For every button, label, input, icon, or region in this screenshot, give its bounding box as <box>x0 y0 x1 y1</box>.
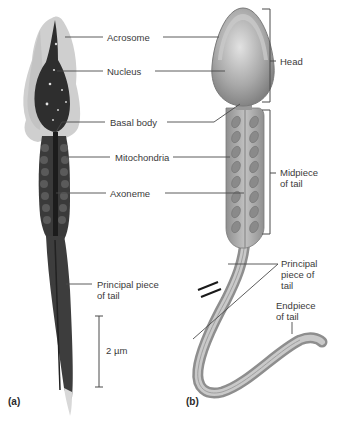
micrograph-sperm <box>23 16 80 416</box>
scale-bar-label: 2 µm <box>106 345 127 356</box>
label-head: Head <box>280 56 303 67</box>
label-acrosome: Acrosome <box>107 32 150 43</box>
label-principal-piece-a-line1: Principal piece <box>97 279 159 290</box>
panel-label-b: (b) <box>186 396 199 407</box>
label-principal-b-line2: piece of <box>281 269 314 280</box>
label-endpiece-line1: Endpiece <box>276 300 316 311</box>
illustrated-sperm <box>198 8 322 393</box>
label-principal-piece-a-line2: of tail <box>97 290 120 301</box>
label-endpiece-line2: of tail <box>276 311 299 322</box>
label-axoneme: Axoneme <box>110 188 150 199</box>
label-principal-b-line3: tail <box>281 280 293 291</box>
sperm-diagram: Acrosome Nucleus Basal body Mitochondria… <box>0 0 344 421</box>
label-nucleus: Nucleus <box>107 66 141 77</box>
label-principal-b-line1: Principal <box>281 258 317 269</box>
label-basal-body: Basal body <box>110 117 157 128</box>
scale-bar <box>95 316 103 387</box>
panel-label-a: (a) <box>8 396 20 407</box>
label-mitochondria: Mitochondria <box>115 152 169 163</box>
label-midpiece-line2: of tail <box>280 178 303 189</box>
label-midpiece-line1: Midpiece <box>280 167 318 178</box>
